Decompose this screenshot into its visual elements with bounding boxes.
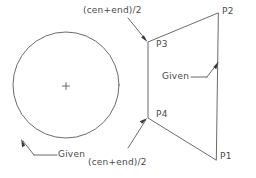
label-midpoint-top: (cen+end)/2 xyxy=(83,6,142,15)
label-midpoint-bottom: (cen+end)/2 xyxy=(88,158,147,167)
label-given-circle: Given xyxy=(58,150,85,159)
label-point-p3: P3 xyxy=(156,40,168,49)
label-given-quad: Given xyxy=(162,72,189,81)
given-quadrilateral xyxy=(148,13,218,160)
diagram-root: (cen+end)/2 (cen+end)/2 Given Given P2 P… xyxy=(0,0,256,178)
label-point-p1: P1 xyxy=(220,152,232,161)
leader-line-to-p4 xyxy=(128,118,148,148)
label-point-p2: P2 xyxy=(222,7,234,16)
leader-line-to-circle xyxy=(21,139,57,155)
leader-line-to-quad-edge xyxy=(191,62,219,78)
label-point-p4: P4 xyxy=(156,110,168,119)
diagram-canvas xyxy=(0,0,256,178)
leader-line-to-p3 xyxy=(128,18,148,42)
circle-center-mark xyxy=(63,83,70,90)
